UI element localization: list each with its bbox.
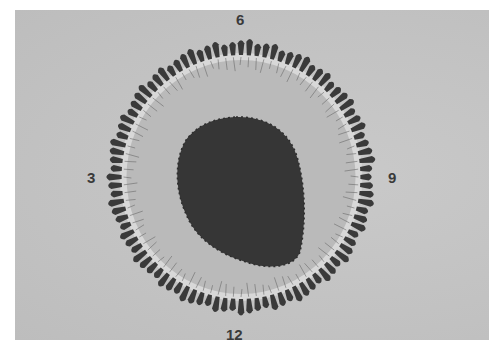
ring-segment <box>329 256 340 267</box>
ring-segment <box>221 298 228 312</box>
ring-segment <box>204 46 212 60</box>
ring-segment <box>262 296 269 308</box>
ring-segment <box>285 289 293 301</box>
ring-segment <box>108 199 124 207</box>
clock-label-6: 6 <box>236 12 244 27</box>
ring-segment <box>116 132 128 140</box>
ring-segment <box>197 50 205 63</box>
ring-segment <box>110 156 123 163</box>
ring-segment <box>358 199 374 207</box>
ring-segment <box>358 148 373 156</box>
ring-segment <box>116 214 129 222</box>
ring-segment <box>180 54 190 68</box>
ring-segment <box>188 289 197 304</box>
ring-segment <box>196 292 204 305</box>
ring-segment <box>167 66 176 77</box>
ring-segment <box>125 236 138 246</box>
ring-segment <box>262 44 269 58</box>
ring-segment <box>347 229 358 238</box>
ring-segment <box>270 44 278 60</box>
ring-segment <box>254 44 261 57</box>
clock-label-12: 12 <box>226 327 243 342</box>
ring-segment <box>120 222 131 230</box>
ring-segment <box>238 40 245 55</box>
ring-segment <box>205 294 212 306</box>
ring-segment <box>277 50 285 62</box>
ring-segment <box>360 182 373 189</box>
ring-segment <box>343 236 355 246</box>
ring-segment <box>131 243 143 253</box>
ring-segment <box>147 81 158 92</box>
ring-segment <box>212 296 220 312</box>
ring-segment <box>353 132 364 140</box>
ring-segment <box>110 148 125 156</box>
ring-segment <box>324 82 334 92</box>
ring-segment <box>356 139 369 147</box>
ring-segment <box>106 174 121 181</box>
specimen-figure <box>0 0 501 355</box>
ring-segment <box>359 156 375 163</box>
clock-label-9: 9 <box>388 170 396 185</box>
ring-segment <box>187 49 197 65</box>
clock-label-3: 3 <box>87 170 95 185</box>
ring-segment <box>118 123 132 132</box>
ring-segment <box>112 207 127 215</box>
ring-segment <box>173 60 183 73</box>
ring-segment <box>359 191 374 198</box>
ring-segment <box>154 267 164 278</box>
ring-segment <box>127 109 138 118</box>
ring-segment <box>212 42 220 58</box>
ring-segment <box>255 298 262 311</box>
ring-segment <box>351 122 366 132</box>
ring-segment <box>285 52 294 65</box>
ring-segment <box>351 222 366 232</box>
ring-segment <box>110 139 126 148</box>
ring-segment <box>108 182 122 189</box>
ring-segment <box>356 207 368 215</box>
ring-segment <box>306 277 316 289</box>
ring-segment <box>238 299 245 315</box>
ring-segment <box>312 273 321 284</box>
ring-segment <box>174 282 183 294</box>
ring-segment <box>246 299 253 314</box>
ring-segment <box>270 294 278 310</box>
ring-segment <box>277 292 286 306</box>
ring-segment <box>306 65 316 77</box>
ring-segment <box>246 39 253 56</box>
ring-segment <box>353 214 367 223</box>
ring-segment <box>111 191 123 198</box>
ring-segment <box>229 42 236 55</box>
ring-segment <box>343 108 355 117</box>
ring-segment <box>347 115 360 125</box>
